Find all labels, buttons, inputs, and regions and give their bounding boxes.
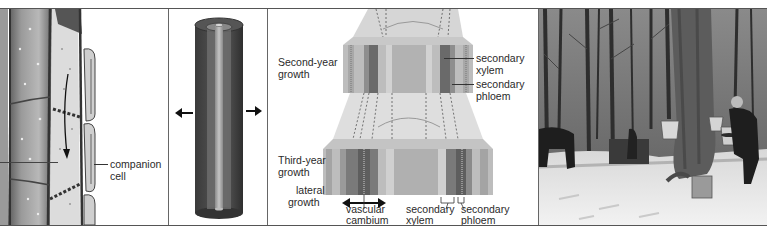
- secondary-xylem-top-leader: [444, 58, 474, 59]
- forest-photo: [539, 9, 767, 225]
- secondary-phloem-top-leader: [452, 84, 474, 85]
- second-year-growth-label-line2: growth: [278, 68, 310, 80]
- companion-cell-label-line2: cell: [110, 170, 126, 182]
- secondary-phloem-top-label-line2: phloem: [476, 90, 510, 102]
- companion-cell-left-leader: [0, 162, 58, 163]
- third-year-growth-label-line2: growth: [278, 166, 310, 178]
- secondary-xylem-top-label-line2: xylem: [476, 64, 503, 76]
- sieve-tube-illustration: [0, 9, 168, 225]
- secondary-growth-panel: Second-year growth secondary xylem secon…: [268, 9, 538, 225]
- secondary-xylem-top-label-line1: secondary: [476, 52, 524, 64]
- cylinder-panel: [169, 9, 267, 225]
- third-year-growth-label-line1: Third-year: [278, 154, 326, 166]
- secondary-phloem-bottom-label-line2: phloem: [461, 214, 495, 225]
- secondary-phloem-top-label-line1: secondary: [476, 78, 524, 90]
- secondary-xylem-bottom-label-line2: xylem: [406, 214, 433, 225]
- stem-cylinder-illustration: [169, 9, 267, 225]
- vascular-cambium-label-line2: cambium: [346, 214, 389, 225]
- lateral-growth-label-line2: growth: [288, 196, 320, 208]
- sieve-tube-panel: companion cell: [0, 9, 168, 225]
- companion-cell-leader-line: [94, 164, 108, 165]
- figure-frame: companion cell: [0, 8, 767, 226]
- lateral-growth-label-line1: lateral: [296, 184, 325, 196]
- maple-sugaring-photo: [539, 9, 767, 225]
- companion-cell-label-line1: companion: [110, 158, 161, 170]
- second-year-growth-label-line1: Second-year: [278, 56, 338, 68]
